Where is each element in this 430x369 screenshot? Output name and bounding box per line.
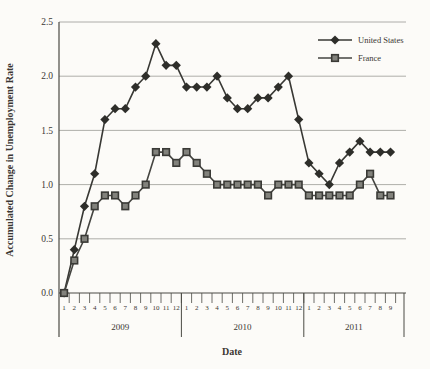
year-label: 2009 — [111, 322, 130, 332]
france-marker — [285, 181, 292, 188]
month-tick-label: 8 — [134, 304, 138, 312]
france-marker — [204, 170, 211, 177]
month-tick-label: 5 — [103, 304, 107, 312]
month-tick-label: 12 — [295, 304, 303, 312]
united-states-marker — [294, 115, 303, 124]
month-tick-label: 9 — [389, 304, 393, 312]
france-marker — [357, 181, 364, 188]
month-tick-label: 3 — [83, 304, 87, 312]
month-tick-label: 4 — [338, 304, 342, 312]
france-marker — [275, 181, 282, 188]
france-marker — [336, 192, 343, 199]
france-marker — [214, 181, 221, 188]
month-tick-label: 2 — [195, 304, 199, 312]
united-states-marker — [80, 202, 89, 211]
france-marker — [326, 192, 333, 199]
month-tick-label: 1 — [185, 304, 189, 312]
france-marker — [142, 181, 149, 188]
united-states-marker — [162, 61, 171, 70]
france-marker — [102, 192, 109, 199]
month-tick-label: 7 — [368, 304, 372, 312]
united-states-series-line — [64, 44, 390, 293]
month-tick-label: 9 — [266, 304, 270, 312]
month-tick-label: 8 — [379, 304, 383, 312]
unemployment-change-chart: 0.00.51.01.52.02.51234567891011122009123… — [0, 0, 430, 369]
legend-united-states-label: United States — [358, 35, 404, 45]
month-tick-label: 11 — [285, 304, 292, 312]
y-tick-label: 1.0 — [41, 180, 53, 190]
month-tick-label: 3 — [328, 304, 332, 312]
y-axis-title: Accumulated Change in Unemployment Rate — [4, 63, 15, 257]
month-tick-label: 4 — [215, 304, 219, 312]
france-marker — [81, 236, 88, 243]
month-tick-label: 3 — [205, 304, 209, 312]
month-tick-label: 7 — [124, 304, 128, 312]
united-states-marker — [90, 169, 99, 178]
france-marker — [377, 192, 384, 199]
france-marker — [234, 181, 241, 188]
month-tick-label: 9 — [144, 304, 148, 312]
france-marker — [173, 160, 180, 167]
united-states-marker — [386, 147, 395, 156]
france-marker — [183, 149, 190, 156]
france-series-line — [64, 152, 390, 293]
united-states-marker — [192, 82, 201, 91]
france-marker — [346, 192, 353, 199]
month-tick-label: 10 — [275, 304, 283, 312]
chart-canvas: 0.00.51.01.52.02.51234567891011122009123… — [0, 0, 430, 369]
france-marker — [224, 181, 231, 188]
month-tick-label: 1 — [307, 304, 311, 312]
month-tick-label: 6 — [113, 304, 117, 312]
y-tick-label: 2.0 — [41, 71, 53, 81]
united-states-marker — [376, 147, 385, 156]
y-tick-label: 0.5 — [41, 234, 53, 244]
france-marker — [153, 149, 160, 156]
month-tick-label: 5 — [226, 304, 230, 312]
france-marker — [71, 257, 78, 264]
france-marker — [244, 181, 251, 188]
legend-france-label: France — [358, 53, 381, 63]
france-marker — [255, 181, 262, 188]
year-label: 2010 — [234, 322, 253, 332]
legend-united-states-marker-icon — [330, 35, 339, 44]
month-tick-label: 6 — [236, 304, 240, 312]
france-marker — [367, 170, 374, 177]
month-tick-label: 11 — [163, 304, 170, 312]
year-label: 2011 — [345, 322, 363, 332]
y-tick-label: 0.0 — [41, 288, 53, 298]
month-tick-label: 1 — [62, 304, 66, 312]
month-tick-label: 4 — [93, 304, 97, 312]
france-marker — [295, 181, 302, 188]
france-marker — [122, 203, 129, 210]
month-tick-label: 7 — [246, 304, 250, 312]
month-tick-label: 2 — [317, 304, 321, 312]
france-marker — [132, 192, 139, 199]
y-tick-label: 2.5 — [41, 17, 53, 27]
month-tick-label: 5 — [348, 304, 352, 312]
united-states-marker — [182, 82, 191, 91]
legend-france-marker-icon — [332, 55, 339, 62]
united-states-marker — [151, 39, 160, 48]
month-tick-label: 12 — [173, 304, 181, 312]
x-axis-title: Date — [222, 346, 243, 357]
france-marker — [316, 192, 323, 199]
month-tick-label: 10 — [152, 304, 160, 312]
united-states-marker — [121, 104, 130, 113]
y-tick-label: 1.5 — [41, 126, 53, 136]
france-marker — [91, 203, 98, 210]
france-marker — [61, 290, 68, 297]
france-marker — [163, 149, 170, 156]
france-marker — [265, 192, 272, 199]
month-tick-label: 6 — [358, 304, 362, 312]
month-tick-label: 2 — [73, 304, 77, 312]
month-tick-label: 8 — [256, 304, 260, 312]
france-marker — [112, 192, 119, 199]
france-marker — [306, 192, 313, 199]
france-marker — [193, 160, 200, 167]
united-states-marker — [172, 61, 181, 70]
france-marker — [387, 192, 394, 199]
